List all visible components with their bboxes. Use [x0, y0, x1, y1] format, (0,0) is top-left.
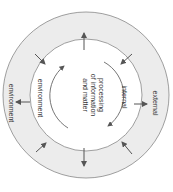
outer-left-label: environment [8, 84, 15, 123]
inner-left-label: environment [37, 79, 44, 118]
inner-right-label: internal [121, 86, 128, 109]
center-label-line-3: and matter [82, 78, 89, 112]
system-environment-diagram: processing of information and matter int… [0, 0, 173, 192]
outer-right-label: external [152, 91, 159, 116]
center-label-line-2: of information [90, 74, 97, 117]
center-label-line-1: processing [97, 78, 105, 112]
